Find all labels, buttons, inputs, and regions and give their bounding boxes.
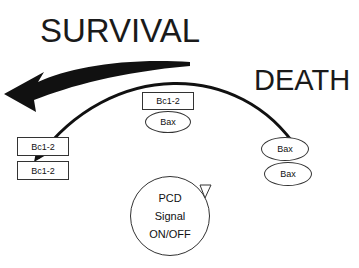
pcd-line-3: ON/OFF [149, 225, 191, 243]
right-bax-ellipse-2: Bax [264, 162, 312, 186]
left-bcl2-box-1: Bc1-2 [17, 137, 69, 156]
survival-label: SURVIVAL [40, 12, 200, 50]
pcd-signal-bubble: PCD Signal ON/OFF [130, 176, 210, 256]
death-label: DEATH [254, 64, 350, 97]
right-bax-ellipse-1: Bax [261, 137, 309, 161]
center-bax-ellipse: Bax [145, 111, 191, 133]
pcd-line-1: PCD [158, 189, 181, 207]
pcd-line-2: Signal [155, 207, 186, 225]
center-bcl2-box: Bc1-2 [142, 92, 194, 110]
left-bcl2-box-2: Bc1-2 [17, 161, 69, 180]
